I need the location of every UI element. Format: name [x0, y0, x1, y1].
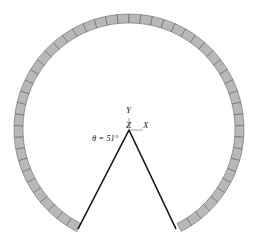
- ring-segment: [14, 137, 24, 149]
- right-boundary-line: [129, 130, 176, 229]
- ring-segment: [106, 15, 119, 26]
- ring-segment: [234, 114, 244, 126]
- angle-label: θ = 51°: [92, 133, 119, 143]
- ring-segment: [14, 114, 24, 126]
- x-axis-label: X: [142, 120, 149, 130]
- ring-segment: [140, 15, 153, 26]
- ring-segment: [14, 126, 23, 138]
- left-boundary-line: [78, 130, 129, 229]
- ring-segment: [16, 147, 27, 160]
- ring-segment: [233, 137, 243, 149]
- ring-segment: [129, 14, 141, 24]
- sector-ring-diagram: Y Z X θ = 51°: [0, 0, 258, 245]
- ring-segment: [94, 16, 107, 28]
- ring-segment: [232, 102, 243, 115]
- z-axis-label: Z: [126, 120, 132, 130]
- ring-segment: [235, 126, 244, 138]
- y-axis-label: Y: [126, 105, 132, 115]
- ring-segment: [117, 14, 129, 24]
